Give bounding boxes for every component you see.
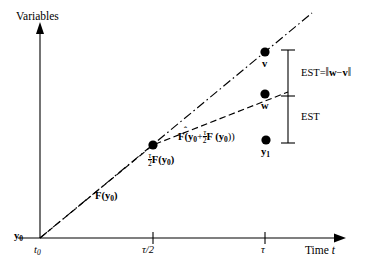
est-upper-prefix: EST= (301, 67, 326, 78)
label-f-y0-sub: 0 (110, 194, 114, 203)
x-axis-title: Time t (305, 245, 335, 257)
label-fhat-midpoint: ˆF(y0+ τ 2 F (y0)) (178, 129, 235, 145)
fhat-fraction-denominator: 2 (203, 136, 207, 145)
fraction-denominator: 2 (148, 159, 152, 168)
hat-accent-icon: ˆ (184, 126, 187, 135)
est-lower-label: EST (301, 112, 320, 123)
point-v-dot (260, 47, 269, 56)
x-axis (18, 234, 346, 243)
point-y1-dot (261, 135, 270, 144)
fhat-fraction-numerator: τ (203, 129, 207, 137)
xtick-label-tau: τ (261, 245, 265, 256)
point-midpoint-dot (148, 140, 157, 149)
point-w-label: w (261, 101, 269, 112)
origin-t0-sub: 0 (37, 248, 41, 257)
fhat-sub: 0 (193, 135, 197, 144)
norm-close-icon: ‖ (348, 65, 351, 79)
fhat-close: )) (228, 131, 235, 142)
fhat-tail-sub: 0 (224, 135, 228, 144)
figure-canvas: Variables Time t y0 t0 τ/2 τ v w y1 F(y0… (0, 0, 386, 274)
label-tau-f-close: ) (171, 154, 175, 165)
label-f-y0-close: ) (114, 190, 118, 201)
origin-y0-label: y0 (14, 231, 23, 242)
fhat-symbol: ˆF(y (178, 132, 193, 143)
fhat-tail: F (y (207, 131, 224, 142)
label-tau-half-f-y0: τ 2 F(y0) (148, 152, 174, 168)
origin-t0-label: t0 (34, 245, 41, 256)
label-f-y0: F(y0) (95, 191, 117, 202)
point-v-label: v (262, 59, 267, 70)
y-axis-title: Variables (16, 11, 59, 23)
label-f-y0-open: F(y (95, 190, 110, 201)
fraction-numerator: τ (148, 152, 152, 160)
origin-y0-sub: 0 (19, 234, 23, 243)
y-axis (36, 22, 44, 238)
fhat-fraction-tau-over-2: τ 2 (203, 129, 207, 145)
point-y1-sub: 1 (266, 150, 270, 159)
point-w-dot (260, 89, 269, 98)
xtick-label-tau-half: τ/2 (142, 245, 154, 256)
est-bracket (281, 50, 295, 143)
est-upper-w: w (329, 67, 337, 78)
label-tau-f-open: F(y (152, 154, 167, 165)
est-upper-label: EST=‖w−v‖ (301, 66, 351, 79)
fraction-tau-over-2: τ 2 (148, 152, 152, 168)
point-y1-label: y1 (261, 147, 270, 158)
label-tau-f-sub: 0 (167, 158, 171, 167)
x-axis-title-var: t (332, 244, 335, 256)
x-axis-title-main: Time (305, 244, 329, 256)
